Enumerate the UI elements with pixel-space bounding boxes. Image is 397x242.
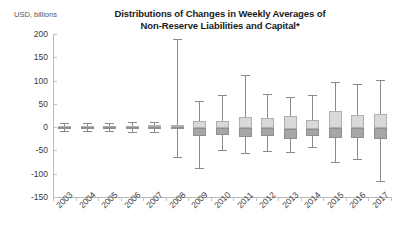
box-upper-quartile [374, 114, 387, 128]
box-plot-2017 [0, 0, 397, 242]
box-lower-quartile [374, 128, 387, 140]
whisker-cap-bottom [376, 181, 385, 182]
box-plot-chart: USD, billions Distributions of Changes i… [0, 0, 397, 242]
whisker-cap-top [376, 80, 385, 81]
